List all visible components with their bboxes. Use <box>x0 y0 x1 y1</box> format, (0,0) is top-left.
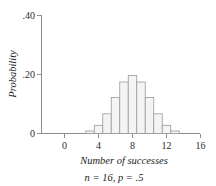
histogram-bar <box>145 97 154 133</box>
histogram-bar <box>128 76 137 134</box>
histogram-bar <box>111 97 120 133</box>
x-tick-label-8: 8 <box>130 140 135 151</box>
x-tick-label-0: 0 <box>62 140 67 151</box>
y-tick-label-0: 0 <box>30 128 35 139</box>
x-tick-label-4: 4 <box>96 140 101 151</box>
x-tick-label-12: 12 <box>162 140 172 151</box>
bar-group <box>86 76 180 134</box>
histogram-bar <box>171 131 180 134</box>
histogram-bar <box>120 82 129 134</box>
figure-caption: n = 16, p = .5 <box>85 172 144 183</box>
y-tick-label-40: .40 <box>23 10 36 21</box>
figure-container: .40 .20 0 0 4 8 12 16 Number of successe… <box>0 0 216 186</box>
x-axis-title: Number of successes <box>79 155 168 166</box>
histogram-bar <box>162 125 171 133</box>
histogram-bar <box>94 125 103 133</box>
histogram-bar <box>154 114 163 134</box>
y-axis-title: Probability <box>7 50 18 99</box>
histogram-bar <box>137 82 146 134</box>
binomial-histogram: .40 .20 0 0 4 8 12 16 Number of successe… <box>0 0 216 186</box>
chart-svg: .40 .20 0 0 4 8 12 16 Number of successe… <box>0 0 216 186</box>
histogram-bar <box>86 131 95 134</box>
histogram-bar <box>103 114 112 134</box>
x-tick-label-16: 16 <box>196 140 206 151</box>
y-tick-label-20: .20 <box>23 69 36 80</box>
